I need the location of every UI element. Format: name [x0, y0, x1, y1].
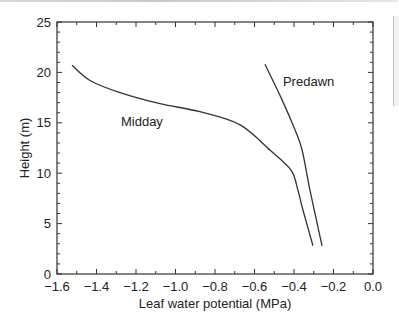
plot-frame	[57, 22, 373, 274]
series-label-midday: Midday	[121, 114, 163, 129]
y-tick-label: 5	[44, 216, 51, 231]
tick-labels: −1.6−1.4−1.2−1.0−0.8−0.6−0.4−0.20.005101…	[37, 15, 383, 295]
x-axis-label: Leaf water potential (MPa)	[139, 296, 291, 311]
series-line-midday	[72, 65, 313, 245]
x-tick-label: −1.4	[84, 279, 110, 294]
y-tick-label: 10	[37, 166, 51, 181]
y-tick-label: 0	[44, 267, 51, 282]
series-lines	[72, 64, 322, 245]
y-tick-label: 25	[37, 15, 51, 30]
x-tick-label: −0.6	[242, 279, 268, 294]
x-tick-label: −1.2	[123, 279, 149, 294]
x-tick-label: 0.0	[364, 279, 382, 294]
axis-ticks	[57, 22, 373, 274]
x-tick-label: −0.4	[281, 279, 307, 294]
x-tick-label: −0.8	[202, 279, 228, 294]
series-line-predawn	[265, 64, 322, 245]
y-axis-label: Height (m)	[17, 118, 32, 179]
y-tick-label: 15	[37, 115, 51, 130]
y-tick-label: 20	[37, 65, 51, 80]
series-label-predawn: Predawn	[283, 74, 334, 89]
x-tick-label: −0.2	[321, 279, 347, 294]
x-tick-label: −1.0	[163, 279, 189, 294]
